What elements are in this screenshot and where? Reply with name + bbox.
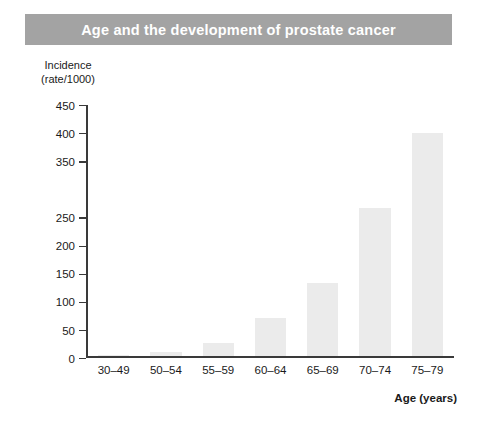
- plot-area: 050100150200250350400450: [86, 105, 467, 358]
- bar-slot: [192, 105, 244, 356]
- y-axis-tick-label: 400: [56, 128, 75, 140]
- x-axis-tick-label: 75–79: [401, 364, 453, 376]
- bar: [98, 355, 129, 356]
- y-axis-title: Incidence (rate/1000): [14, 58, 122, 86]
- y-axis-tick: 250: [79, 217, 86, 218]
- x-axis-tick-label: 65–69: [297, 364, 349, 376]
- x-axis-title: Age (years): [394, 392, 457, 404]
- y-axis-title-line2: (rate/1000): [14, 72, 122, 86]
- bar: [359, 208, 390, 356]
- bar: [255, 318, 286, 356]
- y-axis-tick-label: 150: [56, 268, 75, 280]
- x-axis-tick-label: 55–59: [192, 364, 244, 376]
- x-axis-line: [86, 356, 454, 358]
- bar: [307, 283, 338, 357]
- chart-title: Age and the development of prostate canc…: [81, 22, 396, 38]
- bar-slot: [349, 105, 401, 356]
- x-axis-tick-label: 30–49: [88, 364, 140, 376]
- bar: [412, 133, 443, 356]
- y-axis-tick-label: 200: [56, 240, 75, 252]
- bar-slot: [297, 105, 349, 356]
- y-axis-tick: 450: [79, 105, 86, 106]
- y-axis-tick: 400: [79, 133, 86, 134]
- y-axis-tick: 100: [79, 302, 86, 303]
- y-axis-tick-label: 50: [62, 325, 75, 337]
- y-axis-tick: 350: [79, 161, 86, 162]
- bar: [150, 352, 181, 356]
- chart-figure: Age and the development of prostate canc…: [0, 0, 477, 429]
- y-axis-tick: 50: [79, 330, 86, 331]
- y-axis-tick: 0: [79, 358, 86, 359]
- y-axis-tick-label: 0: [69, 353, 75, 365]
- bar-slot: [401, 105, 453, 356]
- y-axis-tick: 150: [79, 274, 86, 275]
- x-axis-tick-label: 60–64: [244, 364, 296, 376]
- bar-slot: [88, 105, 140, 356]
- y-axis-tick: 200: [79, 246, 86, 247]
- x-axis-tick-labels: 30–4950–5455–5960–6465–6970–7475–79: [88, 364, 454, 376]
- y-axis-tick-label: 450: [56, 100, 75, 112]
- bar-series: [88, 105, 454, 356]
- bar-slot: [140, 105, 192, 356]
- bar: [203, 343, 234, 356]
- y-axis-tick-label: 100: [56, 296, 75, 308]
- y-axis-title-line1: Incidence: [14, 58, 122, 72]
- x-axis-tick-label: 50–54: [140, 364, 192, 376]
- y-axis-tick-label: 350: [56, 156, 75, 168]
- y-axis-tick-label: 250: [56, 212, 75, 224]
- bar-slot: [244, 105, 296, 356]
- chart-title-banner: Age and the development of prostate canc…: [25, 14, 452, 45]
- x-axis-tick-label: 70–74: [349, 364, 401, 376]
